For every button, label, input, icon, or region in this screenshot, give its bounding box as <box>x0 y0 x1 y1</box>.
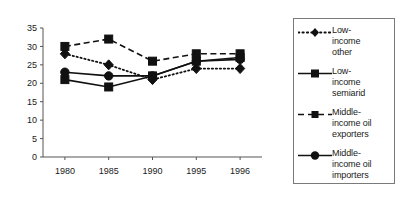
data-point-marker <box>192 57 200 65</box>
y-tick-label: 10 <box>27 115 37 125</box>
data-point-marker <box>149 57 157 65</box>
legend-label-low-income-semiarid: Low- income semiarid <box>332 66 365 99</box>
x-tick-label: 1995 <box>186 166 206 176</box>
y-tick-label: 15 <box>27 97 37 107</box>
x-tick-label: 1996 <box>230 166 250 176</box>
chart-legend: Low- income other Low- income semiarid M… <box>293 18 395 184</box>
data-point-marker <box>148 72 156 80</box>
legend-label-middle-income-oil-importers: Middle- income oil importers <box>332 148 372 181</box>
y-tick-label: 25 <box>27 60 37 70</box>
x-tick-label: 1980 <box>55 166 75 176</box>
data-point-marker <box>236 64 245 74</box>
x-tick-label: 1990 <box>142 166 162 176</box>
legend-swatch-dotted-diamond-icon <box>298 26 332 39</box>
data-point-marker <box>61 68 69 76</box>
y-tick-label: 20 <box>27 78 37 88</box>
legend-item-middle-income-oil-exporters[interactable]: Middle- income oil exporters <box>298 107 390 140</box>
chart-page: 05101520253035 19801985199019951996 Low-… <box>0 0 404 201</box>
data-point-marker <box>104 60 113 70</box>
y-tick-label: 5 <box>32 134 37 144</box>
legend-item-low-income-semiarid[interactable]: Low- income semiarid <box>298 66 390 99</box>
data-point-marker <box>236 55 244 63</box>
legend-swatch-dashed-square-icon <box>298 108 332 121</box>
legend-item-middle-income-oil-importers[interactable]: Middle- income oil importers <box>298 148 390 181</box>
data-point-marker <box>105 83 113 91</box>
y-tick-label: 35 <box>27 23 37 33</box>
legend-swatch-solid-square-icon <box>298 67 332 80</box>
plot-canvas: 05101520253035 19801985199019951996 <box>0 0 270 201</box>
data-point-marker <box>105 35 113 43</box>
series-markers <box>60 35 244 91</box>
legend-swatch-solid-circle-icon <box>298 149 332 162</box>
line-chart-figure: 05101520253035 19801985199019951996 <box>0 0 270 201</box>
y-axis-tick-labels: 05101520253035 <box>27 23 37 162</box>
data-point-marker <box>105 72 113 80</box>
y-tick-label: 30 <box>27 42 37 52</box>
legend-label-low-income-other: Low- income other <box>332 25 360 58</box>
x-axis-tick-labels: 19801985199019951996 <box>55 166 250 176</box>
data-point-marker <box>61 42 69 50</box>
legend-item-low-income-other[interactable]: Low- income other <box>298 25 390 58</box>
legend-label-middle-income-oil-exporters: Middle- income oil exporters <box>332 107 372 140</box>
x-tick-label: 1985 <box>99 166 119 176</box>
y-tick-label: 0 <box>32 152 37 162</box>
axis-lines <box>40 28 262 160</box>
